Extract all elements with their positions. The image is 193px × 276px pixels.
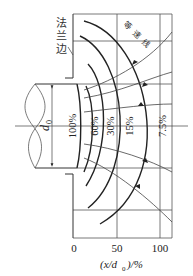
- label-30: 30%: [105, 116, 116, 136]
- label-7.5: 7.5%: [157, 115, 168, 137]
- svg-text:速: 速: [130, 29, 142, 41]
- flange-leader-line: [68, 47, 73, 55]
- svg-text:兰: 兰: [56, 30, 67, 43]
- label-60: 60%: [89, 116, 100, 136]
- svg-text:线: 线: [139, 37, 152, 50]
- tick-0: 0: [71, 242, 77, 254]
- x-axis: 0 50 100 (x/d 0 )/%: [71, 242, 169, 273]
- svg-text:)/%: )/%: [126, 258, 143, 271]
- svg-text:边: 边: [56, 43, 67, 56]
- svg-text:法: 法: [56, 16, 67, 30]
- label-100: 100%: [67, 114, 78, 139]
- isovelocity-label: 等 速 线: [121, 19, 152, 50]
- tick-50: 50: [112, 242, 124, 254]
- tick-100: 100: [152, 242, 169, 254]
- svg-text:0: 0: [45, 120, 54, 124]
- jet-diffusion-diagram: 法 兰 边 等 速 线 d 0 100% 60% 30% 15% 7.5% 0 …: [0, 0, 193, 276]
- svg-text:d: d: [38, 124, 52, 131]
- x-axis-label: (x/d: [100, 258, 118, 271]
- flange-label: 法 兰 边: [56, 16, 67, 56]
- label-15: 15%: [124, 116, 135, 136]
- svg-text:0: 0: [122, 265, 126, 273]
- svg-text:等: 等: [121, 19, 134, 32]
